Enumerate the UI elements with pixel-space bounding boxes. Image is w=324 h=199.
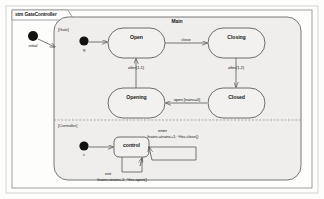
diagram-canvas: stm GateController Main [Gate] [Controll… <box>0 0 324 199</box>
behavior-enter-trigger: enter <box>158 128 167 133</box>
initial-node-outer[interactable] <box>28 31 38 41</box>
region-tag-controller: [Controller] <box>58 124 77 128</box>
transition-initial-to-main[interactable] <box>38 39 55 47</box>
state-closed[interactable] <box>208 88 265 118</box>
behavior-enter-effect: /trains:=trains+1; ^this.close() <box>147 134 198 139</box>
behavior-exit-trigger: exit <box>105 171 111 176</box>
state-open-label: Open <box>130 35 143 40</box>
transition-label-open-guard: open [trains=0] <box>174 98 200 102</box>
composite-state-label: Main <box>172 19 183 24</box>
initial-node-controller-label: c <box>83 153 85 157</box>
initial-node-gate-label: g <box>83 48 85 52</box>
initial-node-gate[interactable] <box>79 36 88 45</box>
state-closing-label: Closing <box>227 35 245 40</box>
frame-title: stm GateController <box>15 12 57 17</box>
transition-label-after-1-2: after(1,2) <box>228 66 244 70</box>
state-open[interactable] <box>108 28 165 58</box>
state-control-label: control <box>123 143 140 148</box>
transition-label-close: close <box>181 38 190 42</box>
transition-label-after-1-1: after(1,1) <box>128 66 144 70</box>
initial-node-controller[interactable] <box>79 141 88 150</box>
region-tag-gate: [Gate] <box>58 28 69 32</box>
state-closed-label: Closed <box>228 95 245 100</box>
state-opening[interactable] <box>108 88 165 118</box>
state-opening-label: Opening <box>126 95 146 100</box>
initial-node-outer-label: initial <box>29 44 38 48</box>
state-closing[interactable] <box>208 28 265 58</box>
behavior-exit-effect: /trains:=trains-1; ^this.open() <box>97 177 147 182</box>
state-machine-diagram <box>0 0 324 199</box>
